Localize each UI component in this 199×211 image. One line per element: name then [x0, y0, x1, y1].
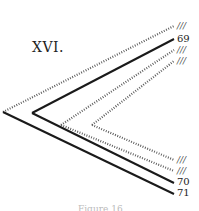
line-69 [32, 39, 174, 113]
inner1-top-dotted [61, 50, 174, 125]
outer-top-dotted [3, 26, 174, 112]
chevron-lines-diagram [0, 0, 199, 211]
label-69: 69 [177, 34, 190, 44]
inner2-top-dotted [92, 61, 174, 125]
line-70 [32, 113, 174, 183]
label-hatch-2: /// [177, 45, 186, 55]
label-70: 70 [177, 177, 190, 187]
label-hatch-5: /// [177, 166, 186, 176]
label-hatch-3: /// [177, 56, 186, 66]
label-hatch-4: /// [177, 155, 186, 165]
label-71: 71 [177, 188, 190, 198]
line-71 [3, 112, 174, 194]
label-hatch-1: /// [177, 21, 186, 31]
figure-caption: Figure 16 [78, 204, 123, 211]
